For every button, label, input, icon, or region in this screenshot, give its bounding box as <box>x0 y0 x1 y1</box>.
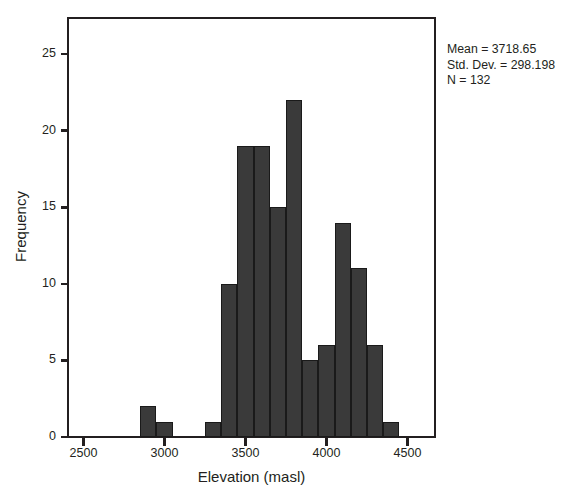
y-axis-title: Frequency <box>12 166 29 286</box>
x-tick-label: 3500 <box>216 446 276 460</box>
stats-stddev: Std. Dev. = 298.198 <box>447 58 555 74</box>
x-tick-mark <box>244 438 247 446</box>
y-tick-label: 5 <box>24 352 56 366</box>
x-tick-mark <box>325 438 328 446</box>
y-tick-label: 20 <box>24 123 56 137</box>
y-tick-mark <box>61 283 68 286</box>
plot-area <box>69 19 434 436</box>
plot-frame <box>67 17 436 438</box>
x-tick-mark <box>82 438 85 446</box>
x-tick-label: 4500 <box>378 446 438 460</box>
y-tick-label: 15 <box>24 199 56 213</box>
x-tick-label: 3000 <box>135 446 195 460</box>
y-tick-mark <box>61 436 68 439</box>
stats-mean: Mean = 3718.65 <box>447 42 555 58</box>
x-axis-title: Elevation (masl) <box>0 468 503 485</box>
y-tick-label: 25 <box>24 46 56 60</box>
y-tick-mark <box>61 359 68 362</box>
x-tick-mark <box>163 438 166 446</box>
histogram-figure: 0510152025 Frequency 2500300035004000450… <box>0 0 563 502</box>
x-tick-label: 4000 <box>297 446 357 460</box>
x-tick-mark <box>406 438 409 446</box>
y-tick-mark <box>61 206 68 209</box>
y-tick-mark <box>61 129 68 132</box>
y-tick-label: 0 <box>24 429 56 443</box>
stats-n: N = 132 <box>447 73 555 89</box>
stats-annotation: Mean = 3718.65 Std. Dev. = 298.198 N = 1… <box>447 42 555 89</box>
y-tick-label: 10 <box>24 276 56 290</box>
x-tick-label: 2500 <box>54 446 114 460</box>
y-tick-mark <box>61 53 68 56</box>
